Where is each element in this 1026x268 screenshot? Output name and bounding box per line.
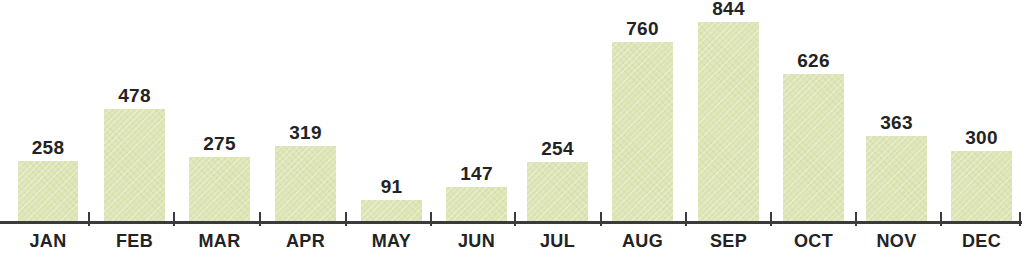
bar-value-label: 254: [527, 138, 588, 160]
x-axis-label-dec: DEC: [951, 231, 1012, 252]
bar-group: 254: [527, 0, 588, 222]
bar-group: 760: [612, 0, 673, 222]
x-axis-tick: [173, 212, 175, 226]
bar-group: 300: [951, 0, 1012, 222]
x-axis-label-may: MAY: [361, 231, 422, 252]
bar-group: 258: [18, 0, 78, 222]
x-axis-tick: [855, 212, 857, 226]
bar-rect[interactable]: [866, 136, 927, 222]
x-axis-label-apr: APR: [275, 231, 336, 252]
bar-group: 363: [866, 0, 927, 222]
x-axis-label-jan: JAN: [18, 231, 78, 252]
bar-value-label: 478: [104, 85, 165, 107]
x-axis-label-aug: AUG: [612, 231, 673, 252]
x-axis-label-jun: JUN: [446, 231, 507, 252]
bar-group: 91: [361, 0, 422, 222]
bar-value-label: 258: [18, 137, 78, 159]
bar-group: 844: [698, 0, 759, 222]
x-axis-tick: [259, 212, 261, 226]
x-axis-tick: [770, 212, 772, 226]
bar-chart: 258 478 275 319 91 147 254 760: [0, 0, 1026, 268]
bar-rect[interactable]: [446, 187, 507, 222]
x-axis-category-labels: JAN FEB MAR APR MAY JUN JUL AUG SEP OCT …: [0, 231, 1026, 268]
bar-value-label: 147: [446, 163, 507, 185]
bar-rect[interactable]: [104, 109, 165, 222]
x-axis-tick: [345, 212, 347, 226]
bar-value-label: 626: [783, 50, 844, 72]
bar-rect[interactable]: [951, 151, 1012, 222]
x-axis-tick: [600, 212, 602, 226]
bar-rect[interactable]: [189, 157, 250, 222]
bar-rect[interactable]: [783, 74, 844, 222]
bar-group: 275: [189, 0, 250, 222]
bar-value-label: 275: [189, 133, 250, 155]
bar-rect[interactable]: [361, 200, 422, 222]
bar-rect[interactable]: [527, 162, 588, 222]
bar-value-label: 844: [698, 0, 759, 20]
bar-rect[interactable]: [612, 42, 673, 222]
bar-value-label: 363: [866, 112, 927, 134]
x-axis-tick: [685, 212, 687, 226]
bar-rect[interactable]: [698, 22, 759, 222]
x-axis-tick: [1019, 212, 1021, 226]
bar-group: 626: [783, 0, 844, 222]
bar-value-label: 319: [275, 122, 336, 144]
bar-value-label: 91: [361, 176, 422, 198]
bar-group: 319: [275, 0, 336, 222]
bar-rect[interactable]: [18, 161, 78, 222]
x-axis-label-mar: MAR: [189, 231, 250, 252]
x-axis-tick: [430, 212, 432, 226]
bar-group: 147: [446, 0, 507, 222]
x-axis-label-jul: JUL: [527, 231, 588, 252]
x-axis-label-oct: OCT: [783, 231, 844, 252]
plot-area: 258 478 275 319 91 147 254 760: [0, 0, 1026, 222]
bar-group: 478: [104, 0, 165, 222]
bar-value-label: 760: [612, 18, 673, 40]
x-axis-label-nov: NOV: [866, 231, 927, 252]
x-axis-tick: [940, 212, 942, 226]
x-axis-label-sep: SEP: [698, 231, 759, 252]
x-axis-tick: [88, 212, 90, 226]
bar-value-label: 300: [951, 127, 1012, 149]
x-axis-line: [0, 221, 1022, 224]
x-axis-label-feb: FEB: [104, 231, 165, 252]
bar-rect[interactable]: [275, 146, 336, 222]
x-axis-tick: [514, 212, 516, 226]
